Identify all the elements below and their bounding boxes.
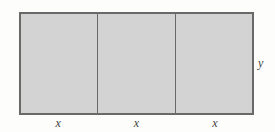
diagram-canvas: x x x y bbox=[0, 0, 275, 132]
divided-rectangle bbox=[19, 12, 254, 115]
width-label-1: x bbox=[19, 115, 97, 131]
height-label: y bbox=[258, 56, 263, 70]
width-labels: x x x bbox=[19, 115, 254, 131]
width-label-3: x bbox=[176, 115, 254, 131]
square-section-1 bbox=[21, 14, 97, 113]
width-label-2: x bbox=[97, 115, 175, 131]
square-section-2 bbox=[97, 14, 174, 113]
square-section-3 bbox=[175, 14, 252, 113]
